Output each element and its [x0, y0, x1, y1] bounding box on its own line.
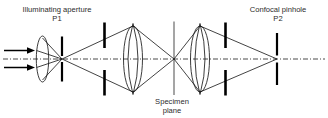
specimen-plane-sublabel: plane: [163, 106, 182, 115]
p1-label: P1: [52, 14, 61, 23]
confocal-optical-path-figure: Illuminating aperture P1 Confocal pinhol…: [0, 0, 328, 118]
confocal-pinhole-label: Confocal pinhole: [250, 5, 307, 14]
illuminating-aperture-label: Illuminating aperture: [23, 5, 92, 14]
p2-label: P2: [273, 14, 282, 23]
diagram-canvas: Illuminating aperture P1 Confocal pinhol…: [0, 0, 328, 118]
specimen-label: Specimen: [155, 97, 189, 106]
